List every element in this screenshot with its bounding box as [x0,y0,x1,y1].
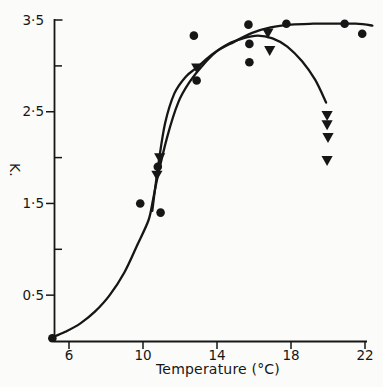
data-point-triangle [322,111,333,121]
y-tick-label: 2·5 [23,103,44,119]
data-point-circle [136,199,145,208]
y-axis-title: K. [7,140,23,200]
fit-curve-rise-fall-fit-triangles [152,36,326,211]
axes-lines [55,19,368,342]
y-tick-label: 3·5 [23,12,44,28]
data-point-circle [48,334,57,343]
x-axis-title: Temperature (°C) [128,361,308,377]
data-point-circle [358,30,367,39]
chart-canvas: 6101418220·51·52·53·5 [0,0,383,387]
data-point-triangle [151,171,162,181]
data-point-triangle [154,153,165,163]
scatter-chart-figure: 6101418220·51·52·53·5 Temperature (°C) K… [0,0,383,387]
data-point-circle [340,19,349,28]
x-tick-label: 6 [65,347,74,363]
y-tick-label: 1·5 [23,195,44,211]
data-point-triangle [322,120,333,130]
data-point-circle [282,19,291,28]
data-point-circle [192,76,201,85]
data-point-circle [154,162,163,171]
data-point-circle [245,40,254,49]
data-point-circle [244,20,253,29]
x-tick-label: 22 [356,347,373,363]
data-point-circle [156,208,165,217]
fit-curve-sigmoid-plateau-fit-circles [52,24,372,338]
data-point-triangle [264,46,275,56]
data-point-circle [245,58,254,67]
y-tick-label: 0·5 [23,287,44,303]
data-point-circle [190,31,199,40]
data-point-triangle [322,156,333,166]
data-point-triangle [322,133,333,143]
